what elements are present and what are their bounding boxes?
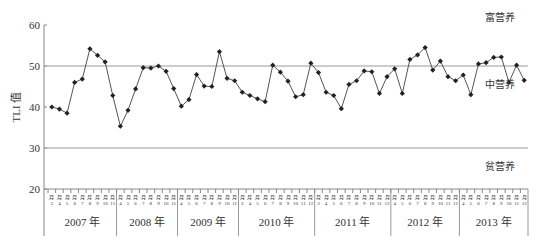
month-label: 月5 xyxy=(331,195,336,206)
svg-text:10: 10 xyxy=(506,201,512,206)
month-label: 月4 xyxy=(392,195,397,206)
data-point-marker xyxy=(64,111,69,116)
month-label: 月11 xyxy=(301,195,306,206)
svg-text:4: 4 xyxy=(393,201,396,206)
month-label: 月10 xyxy=(225,195,231,206)
month-label: 月12 xyxy=(453,195,459,206)
month-label: 月9 xyxy=(156,195,161,206)
month-label: 月9 xyxy=(430,195,435,206)
month-label: 月5 xyxy=(400,195,405,206)
data-point-marker xyxy=(224,76,229,81)
svg-text:4: 4 xyxy=(58,201,61,206)
svg-text:5: 5 xyxy=(470,201,473,206)
month-label: 月9 xyxy=(362,195,367,206)
svg-text:5: 5 xyxy=(66,201,69,206)
data-point-marker xyxy=(217,49,222,54)
month-label: 月5 xyxy=(65,195,70,206)
svg-text:11: 11 xyxy=(514,201,519,206)
svg-text:9: 9 xyxy=(218,201,221,206)
data-point-marker xyxy=(499,54,504,59)
month-label: 月4 xyxy=(118,195,123,206)
month-label: 月5 xyxy=(126,195,131,206)
svg-text:4: 4 xyxy=(180,201,183,206)
month-label: 月8 xyxy=(148,195,153,206)
month-label: 月8 xyxy=(209,195,214,206)
data-point-marker xyxy=(293,94,298,99)
y-tick-label: 50 xyxy=(29,60,41,72)
month-label: 月4 xyxy=(179,195,184,206)
data-point-marker xyxy=(407,57,412,62)
zone-label-oligotrophic: 贫营养 xyxy=(485,160,515,172)
svg-text:8: 8 xyxy=(355,201,358,206)
data-point-marker xyxy=(514,63,519,68)
month-label: 月10 xyxy=(506,195,512,206)
svg-text:9: 9 xyxy=(500,201,503,206)
data-point-marker xyxy=(202,83,207,88)
svg-text:11: 11 xyxy=(377,201,382,206)
y-tick-label: 20 xyxy=(29,183,41,195)
month-label: 月7 xyxy=(270,195,275,206)
data-point-marker xyxy=(171,86,176,91)
month-label: 月7 xyxy=(141,195,146,206)
year-label: 2011 年 xyxy=(335,215,370,228)
month-label: 月7 xyxy=(346,195,351,206)
svg-text:11: 11 xyxy=(171,201,176,206)
month-label: 月9 xyxy=(217,195,222,206)
svg-text:10: 10 xyxy=(164,201,170,206)
month-label: 月3 xyxy=(316,195,321,206)
svg-text:8: 8 xyxy=(150,201,153,206)
month-label: 月7 xyxy=(484,195,489,206)
svg-text:11: 11 xyxy=(110,201,115,206)
month-label: 月7 xyxy=(80,195,85,206)
data-point-marker xyxy=(468,92,473,97)
year-label: 2012 年 xyxy=(407,215,443,228)
svg-text:12: 12 xyxy=(385,201,391,206)
month-label: 月5 xyxy=(468,195,473,206)
month-label: 月7 xyxy=(415,195,420,206)
zone-label-mesotrophic: 中营养 xyxy=(485,78,515,90)
svg-text:9: 9 xyxy=(96,201,99,206)
month-label: 月11 xyxy=(110,195,115,206)
svg-text:10: 10 xyxy=(103,201,109,206)
month-label: 月7 xyxy=(202,195,207,206)
year-label: 2013 年 xyxy=(476,215,512,228)
data-point-marker xyxy=(331,93,336,98)
y-tick-label: 30 xyxy=(29,142,41,154)
svg-text:12: 12 xyxy=(522,201,528,206)
month-label: 月8 xyxy=(278,195,283,206)
month-label: 月5 xyxy=(255,195,260,206)
tli-line xyxy=(52,48,524,127)
data-point-marker xyxy=(194,72,199,77)
svg-text:6: 6 xyxy=(73,201,76,206)
svg-text:4: 4 xyxy=(119,201,122,206)
svg-text:11: 11 xyxy=(446,201,451,206)
year-label: 2007 年 xyxy=(64,215,100,228)
axis-labels: 2030405060TLI 值月3月4月5月6月7月8月9月10月112007 … xyxy=(10,11,527,228)
month-label: 月6 xyxy=(407,195,412,206)
svg-text:3: 3 xyxy=(51,201,54,206)
data-point-marker xyxy=(57,106,62,111)
svg-text:8: 8 xyxy=(492,201,495,206)
month-label: 月12 xyxy=(522,195,528,206)
month-label: 月8 xyxy=(491,195,496,206)
svg-text:5: 5 xyxy=(188,201,191,206)
data-point-marker xyxy=(232,78,237,83)
month-label: 月9 xyxy=(286,195,291,206)
svg-text:5: 5 xyxy=(332,201,335,206)
y-tick-label: 60 xyxy=(29,19,41,31)
month-label: 月4 xyxy=(57,195,62,206)
svg-text:9: 9 xyxy=(363,201,366,206)
month-label: 月10 xyxy=(103,195,109,206)
y-axis-title: TLI 值 xyxy=(10,92,22,123)
data-point-marker xyxy=(72,80,77,85)
svg-text:7: 7 xyxy=(81,201,84,206)
month-label: 月6 xyxy=(194,195,199,206)
month-label: 月10 xyxy=(164,195,170,206)
month-label: 月3 xyxy=(49,195,54,206)
month-label: 月4 xyxy=(461,195,466,206)
data-point-marker xyxy=(346,82,351,87)
svg-text:6: 6 xyxy=(477,201,480,206)
svg-text:9: 9 xyxy=(157,201,160,206)
month-label: 月10 xyxy=(438,195,444,206)
svg-text:6: 6 xyxy=(340,201,343,206)
